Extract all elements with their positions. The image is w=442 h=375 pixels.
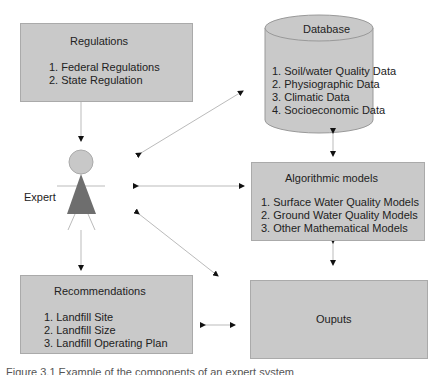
database-title: Database — [303, 23, 350, 35]
expert-figure — [57, 150, 105, 230]
regulations-list: 1. Federal Regulations 2. State Regulati… — [49, 61, 160, 87]
list-item: 3. Landfill Operating Plan — [44, 337, 168, 350]
list-item: 2. State Regulation — [49, 74, 160, 87]
recommendations-title: Recommendations — [54, 285, 146, 298]
figure-caption: Figure 3.1 Example of the components of … — [6, 366, 294, 375]
recommendations-box: Recommendations 1. Landfill Site 2. Land… — [20, 275, 193, 354]
list-item: 1. Soil/water Quality Data — [272, 65, 396, 78]
database-list: 1. Soil/water Quality Data 2. Physiograp… — [272, 65, 396, 117]
regulations-box: Regulations 1. Federal Regulations 2. St… — [20, 23, 193, 102]
outputs-title: Ouputs — [316, 313, 351, 326]
list-item: 4. Socioeconomic Data — [272, 104, 396, 117]
list-item: 1. Landfill Site — [44, 311, 168, 324]
list-item: 1. Surface Water Quality Models — [261, 196, 419, 209]
list-item: 2. Landfill Size — [44, 324, 168, 337]
list-item: 2. Physiographic Data — [272, 78, 396, 91]
list-item: 3. Other Mathematical Models — [261, 222, 419, 235]
list-item: 1. Federal Regulations — [49, 61, 160, 74]
list-item: 2. Ground Water Quality Models — [261, 209, 419, 222]
outputs-box: Ouputs — [250, 280, 428, 359]
list-item: 3. Climatic Data — [272, 91, 396, 104]
recommendations-list: 1. Landfill Site 2. Landfill Size 3. Lan… — [44, 311, 168, 350]
algorithmic-models-list: 1. Surface Water Quality Models 2. Groun… — [261, 196, 419, 235]
regulations-title: Regulations — [70, 35, 128, 48]
algorithmic-models-box: Algorithmic models 1. Surface Water Qual… — [251, 162, 425, 241]
algorithmic-models-title: Algorithmic models — [285, 172, 378, 185]
expert-label: Expert — [24, 191, 56, 203]
